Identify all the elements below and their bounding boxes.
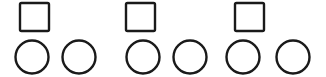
shape-layer (0, 0, 326, 77)
circle-shape-6 (277, 41, 310, 74)
circle-shape-2 (63, 41, 96, 74)
circle-row (16, 41, 310, 74)
square-shape-2 (126, 3, 155, 31)
circle-shape-1 (16, 41, 49, 74)
square-row (20, 3, 264, 31)
square-shape-3 (235, 3, 264, 31)
shapes-diagram: Three squares each paired with two circl… (0, 0, 326, 77)
circle-shape-5 (227, 41, 260, 74)
circle-shape-4 (174, 41, 207, 74)
square-shape-1 (20, 3, 49, 31)
circle-shape-3 (127, 41, 160, 74)
